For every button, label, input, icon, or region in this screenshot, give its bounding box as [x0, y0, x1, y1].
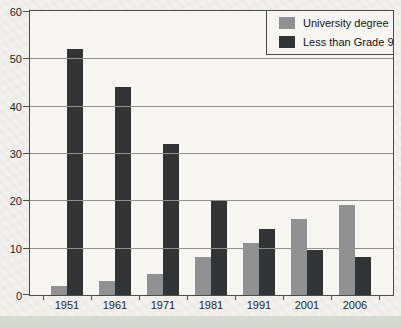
- x-axis-tick-7: [379, 295, 380, 300]
- gridline-30: [30, 153, 393, 154]
- x-tick-label-1951: 1951: [43, 299, 91, 311]
- legend-swatch: [279, 17, 295, 29]
- bar-1991-university-degree: [243, 243, 259, 295]
- bar-2006-university-degree: [339, 205, 355, 295]
- bar-2006-less-than-grade-9: [355, 257, 371, 295]
- y-tick-label-30: 30: [0, 148, 22, 160]
- gridline-50: [30, 58, 393, 59]
- bar-1961-university-degree: [99, 281, 115, 295]
- legend-item-university-degree: University degree: [279, 17, 387, 29]
- x-axis-tick-3: [187, 295, 188, 300]
- legend-label: University degree: [303, 17, 389, 29]
- bar-1991-less-than-grade-9: [259, 229, 275, 295]
- bar-2001-less-than-grade-9: [307, 250, 323, 295]
- y-tick-0: [23, 294, 29, 295]
- y-tick-10: [23, 248, 29, 249]
- y-axis-labels: 0102030405060: [0, 10, 22, 296]
- y-tick-label-60: 60: [0, 6, 22, 18]
- x-axis-tick-4: [235, 295, 236, 300]
- y-tick-label-10: 10: [0, 243, 22, 255]
- y-tick-30: [23, 153, 29, 154]
- x-tick-label-1971: 1971: [139, 299, 187, 311]
- y-tick-40: [23, 106, 29, 107]
- x-axis-tick-2: [139, 295, 140, 300]
- plot-area: University degree Less than Grade 9 1951…: [29, 10, 394, 296]
- x-tick-label-1981: 1981: [187, 299, 235, 311]
- x-axis-tick-0: [43, 295, 44, 300]
- gridline-20: [30, 200, 393, 201]
- bar-1951-less-than-grade-9: [67, 49, 83, 295]
- bar-2001-university-degree: [291, 219, 307, 295]
- page-edge-strip: [0, 316, 401, 327]
- legend: University degree Less than Grade 9: [266, 11, 393, 55]
- gridline-10: [30, 248, 393, 249]
- y-tick-20: [23, 200, 29, 201]
- x-tick-label-2001: 2001: [283, 299, 331, 311]
- y-tick-label-20: 20: [0, 195, 22, 207]
- bar-1971-university-degree: [147, 274, 163, 295]
- legend-swatch: [279, 36, 295, 48]
- bar-1971-less-than-grade-9: [163, 144, 179, 295]
- x-axis-tick-5: [283, 295, 284, 300]
- x-tick-label-2006: 2006: [331, 299, 379, 311]
- bar-1961-less-than-grade-9: [115, 87, 131, 295]
- y-tick-label-0: 0: [0, 290, 22, 302]
- y-tick-label-40: 40: [0, 101, 22, 113]
- chart-figure: 0102030405060 University degree Less tha…: [0, 0, 401, 327]
- y-tick-50: [23, 58, 29, 59]
- x-axis-tick-6: [331, 295, 332, 300]
- x-axis-tick-1: [91, 295, 92, 300]
- y-tick-label-50: 50: [0, 53, 22, 65]
- legend-item-less-than-grade-9: Less than Grade 9: [279, 36, 387, 48]
- bar-1981-university-degree: [195, 257, 211, 295]
- x-tick-label-1961: 1961: [91, 299, 139, 311]
- legend-label: Less than Grade 9: [303, 36, 394, 48]
- x-tick-label-1991: 1991: [235, 299, 283, 311]
- y-tick-60: [23, 11, 29, 12]
- gridline-40: [30, 106, 393, 107]
- bar-1951-university-degree: [51, 286, 67, 295]
